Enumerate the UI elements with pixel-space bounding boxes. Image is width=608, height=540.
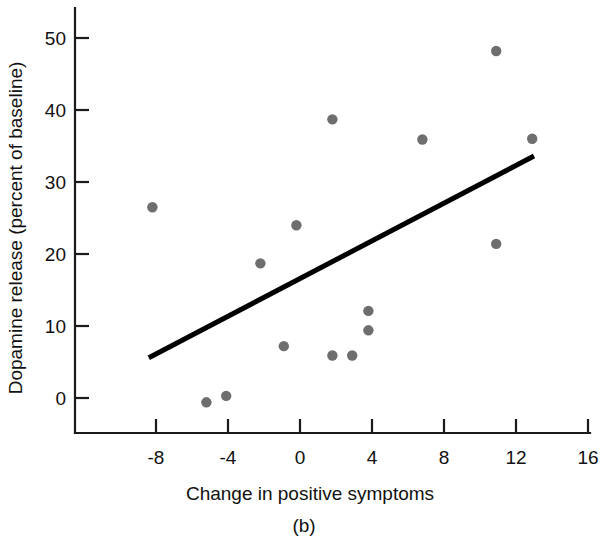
y-tick-label-40: 40 [45, 100, 66, 121]
x-tick-label-minus8: -8 [148, 447, 165, 468]
x-tick-label-12: 12 [505, 447, 526, 468]
y-tick-label-50: 50 [45, 28, 66, 49]
y-axis-ticks [75, 38, 89, 398]
data-point [491, 239, 501, 249]
data-point [491, 46, 501, 56]
data-point [291, 220, 301, 230]
x-tick-label-minus4: -4 [220, 447, 237, 468]
x-tick-label-4: 4 [367, 447, 378, 468]
data-point [327, 350, 337, 360]
scatter-plot-figure: Dopamine release (percent of baseline) 5… [0, 0, 608, 540]
x-tick-label-0: 0 [295, 447, 306, 468]
x-axis-tick-labels: -8 -4 0 4 8 12 16 [148, 447, 599, 468]
x-tick-label-8: 8 [439, 447, 450, 468]
data-point [417, 134, 427, 144]
x-axis-label: Change in positive symptoms [186, 483, 434, 504]
data-series [147, 46, 537, 408]
data-point [279, 341, 289, 351]
data-point [201, 397, 211, 407]
x-tick-label-16: 16 [577, 447, 598, 468]
data-point [363, 325, 373, 335]
data-point [147, 202, 157, 212]
data-point [363, 306, 373, 316]
y-axis-tick-labels: 50 40 30 20 10 0 [45, 28, 66, 409]
y-axis-label: Dopamine release (percent of baseline) [5, 62, 26, 395]
y-tick-label-20: 20 [45, 244, 66, 265]
x-axis-ticks [156, 419, 588, 433]
data-point [527, 134, 537, 144]
y-tick-label-10: 10 [45, 316, 66, 337]
data-point [255, 258, 265, 268]
regression-line [149, 156, 534, 358]
chart-svg: Dopamine release (percent of baseline) 5… [0, 0, 608, 540]
data-point [347, 350, 357, 360]
y-tick-label-30: 30 [45, 172, 66, 193]
y-tick-label-0: 0 [55, 388, 66, 409]
data-point [221, 391, 231, 401]
data-point [327, 114, 337, 124]
figure-caption: (b) [292, 515, 315, 536]
